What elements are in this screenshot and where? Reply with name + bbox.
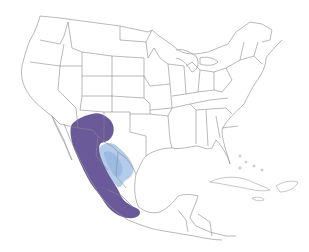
- range-map: [0, 0, 309, 252]
- country-borders: [21, 16, 282, 240]
- caribbean-islands: [210, 155, 298, 201]
